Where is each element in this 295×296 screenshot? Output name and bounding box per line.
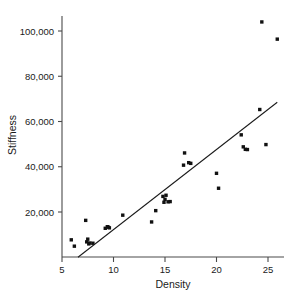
data-point [246,148,249,151]
scatter-plot-figure: 20,00040,00060,00080,000100,000 51015202… [0,0,295,296]
y-tick-label: 20,000 [25,207,54,218]
chart-canvas: 20,00040,00060,00080,000100,000 51015202… [0,0,295,296]
data-point [70,238,73,241]
data-point [164,194,167,197]
data-point [258,108,261,111]
y-tick-label: 40,000 [25,161,54,172]
y-tick-label: 80,000 [25,71,54,82]
x-tick-label: 20 [211,264,222,275]
data-point [73,244,76,247]
data-point [168,200,171,203]
regression-line [78,102,277,257]
data-point [189,162,192,165]
x-tick-label: 5 [59,264,64,275]
x-axis-ticks: 510152025 [59,257,273,275]
y-axis-title: Stiffness [6,115,18,155]
y-tick-label: 100,000 [20,26,54,37]
data-point [264,143,267,146]
y-axis-ticks: 20,00040,00060,00080,000100,000 [20,26,62,218]
data-point [240,133,243,136]
data-point [260,20,263,23]
data-point [162,201,165,204]
data-point [215,172,218,175]
data-point [217,187,220,190]
x-tick-label: 10 [108,264,119,275]
data-point [163,198,166,201]
data-point [86,237,89,240]
data-point [121,213,124,216]
data-point [84,219,87,222]
plot-axes [62,16,284,257]
scatter-points-group [70,20,279,248]
x-tick-label: 25 [263,264,274,275]
data-point [276,37,279,40]
data-point [161,195,164,198]
x-axis-title: Density [155,278,191,290]
data-point [154,209,157,212]
data-point [182,163,185,166]
y-tick-label: 60,000 [25,116,54,127]
x-tick-label: 15 [160,264,171,275]
data-point [108,226,111,229]
data-point [88,241,91,244]
data-point [150,220,153,223]
data-point [183,151,186,154]
